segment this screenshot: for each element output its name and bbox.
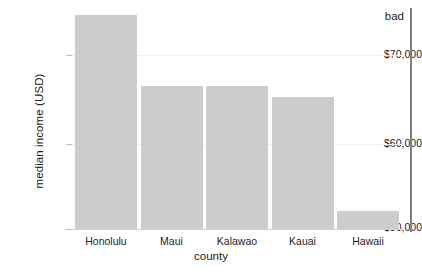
x-tick-label-hawaii: Hawaii bbox=[328, 235, 408, 247]
y-axis-title: median income (USD) bbox=[33, 46, 45, 216]
bar-hawaii bbox=[337, 211, 399, 229]
annotation-vertical-rule bbox=[410, 8, 412, 232]
bar-kalawao bbox=[206, 86, 268, 229]
x-axis-title: county bbox=[0, 250, 422, 262]
annotation-label-bad: bad bbox=[385, 10, 404, 22]
bar-maui bbox=[141, 86, 203, 229]
bar-chart: median income (USD) $70,000 $60,000 $50,… bbox=[0, 0, 422, 276]
bar-kauai bbox=[272, 97, 334, 229]
bar-honolulu bbox=[75, 15, 137, 229]
x-axis-line bbox=[72, 229, 402, 230]
plot-area bbox=[72, 4, 402, 230]
